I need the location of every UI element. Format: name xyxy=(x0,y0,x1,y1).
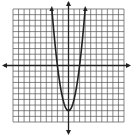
arrow-right-icon xyxy=(126,63,131,68)
arrow-up-icon xyxy=(66,1,71,6)
axes xyxy=(4,2,129,133)
curve-arrow-left-icon xyxy=(49,6,54,11)
arrow-icons xyxy=(2,1,131,135)
arrow-left-icon xyxy=(2,63,7,68)
curve-arrow-right-icon xyxy=(83,6,88,11)
arrow-down-icon xyxy=(66,130,71,135)
parabola-graph xyxy=(0,0,133,138)
